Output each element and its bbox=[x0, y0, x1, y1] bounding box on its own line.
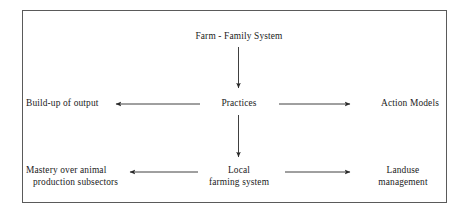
node-mastery-animal-production-label-line2: production subsectors bbox=[26, 177, 146, 189]
node-local-farming-system-label-line2: farming system bbox=[198, 177, 280, 189]
node-landuse-management-label-line1: Landuse bbox=[358, 165, 448, 177]
node-local-farming-system-label-line1: Local bbox=[198, 165, 280, 177]
node-farm-family-system-label: Farm - Family System bbox=[174, 31, 304, 43]
node-build-up-of-output: Build-up of output bbox=[26, 98, 136, 110]
node-build-up-of-output-label: Build-up of output bbox=[26, 98, 136, 110]
diagram-canvas: Practices (vertical, downward) --> Farm … bbox=[0, 0, 466, 218]
node-mastery-animal-production: Mastery over animal production subsector… bbox=[26, 165, 146, 188]
node-landuse-management-label-line2: management bbox=[358, 177, 448, 189]
node-farm-family-system: Farm - Family System bbox=[174, 31, 304, 43]
node-practices-label: Practices bbox=[203, 98, 275, 110]
node-practices: Practices bbox=[203, 98, 275, 110]
node-local-farming-system: Local farming system bbox=[198, 165, 280, 188]
node-landuse-management: Landuse management bbox=[358, 165, 448, 188]
node-mastery-animal-production-label-line1: Mastery over animal bbox=[26, 165, 146, 177]
node-action-models-label: Action Models bbox=[365, 98, 455, 110]
node-action-models: Action Models bbox=[365, 98, 455, 110]
